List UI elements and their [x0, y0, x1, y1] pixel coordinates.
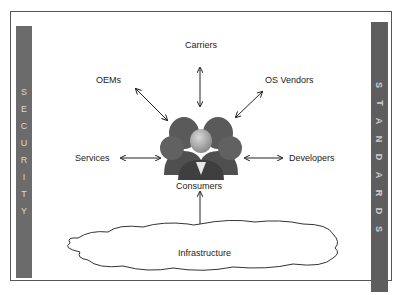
- node-services: Services: [75, 153, 110, 163]
- node-oems: OEMs: [96, 75, 121, 85]
- node-carriers: Carriers: [185, 40, 217, 50]
- people-group-icon: [160, 117, 242, 180]
- node-developers: Developers: [289, 153, 335, 163]
- infrastructure-cloud: [68, 220, 338, 270]
- node-consumers: Consumers: [176, 181, 222, 191]
- node-infrastructure: Infrastructure: [178, 248, 231, 258]
- node-os-vendors: OS Vendors: [265, 75, 314, 85]
